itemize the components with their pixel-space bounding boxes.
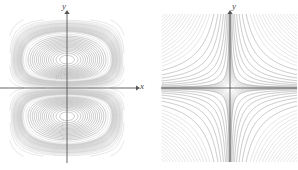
left-contour-svg: [0, 0, 149, 170]
left-y-axis-label: y: [62, 2, 66, 11]
right-y-axis-label: y: [232, 2, 236, 11]
right-contour-svg: [149, 0, 298, 170]
right-contour-panel: [149, 0, 298, 170]
left-contour-panel: [0, 0, 149, 170]
contour-plots-figure: y x y: [0, 0, 298, 170]
left-x-axis-label: x: [140, 82, 144, 91]
